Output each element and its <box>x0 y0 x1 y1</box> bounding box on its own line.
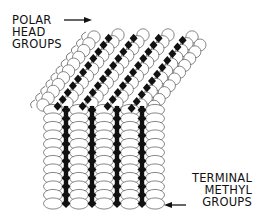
arrow-left-icon <box>164 202 186 208</box>
hydrocarbon-chains <box>31 29 206 209</box>
chain-bodies <box>44 104 165 209</box>
label-line: GROUPS <box>12 38 62 50</box>
polar-head-groups-label: POLAR HEAD GROUPS <box>12 14 62 50</box>
arrow-right-icon <box>64 17 92 23</box>
terminal-methyl-groups-label: TERMINAL METHYL GROUPS <box>192 172 252 208</box>
label-line: GROUPS <box>192 196 252 208</box>
